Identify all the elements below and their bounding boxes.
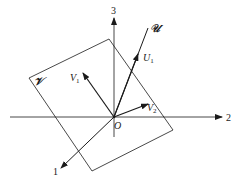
diagram-canvas: 3 2 1 O 𝒰 𝒱 U1 V1 V2 [0,0,235,184]
diagram-svg [0,0,235,184]
vector-v1-arrow [83,73,114,117]
origin-label: O [114,121,121,131]
axis-2-label: 2 [226,113,231,123]
plane-v-label: 𝒱 [34,76,43,87]
vector-v2-sub: 2 [153,107,157,115]
vector-u1-label: U1 [143,53,154,65]
vector-u1-sub: 1 [150,57,154,65]
vector-v1-sub: 1 [76,77,80,85]
axis-1-line [61,117,114,168]
axis-3-label: 3 [111,6,116,16]
origin-dot [113,116,116,119]
vector-v2-arrow [114,104,148,117]
subspace-u-label: 𝒰 [150,23,160,34]
vector-v1-label: V1 [70,73,80,85]
vector-v2-label: V2 [147,103,157,115]
axis-1-label: 1 [53,167,58,177]
